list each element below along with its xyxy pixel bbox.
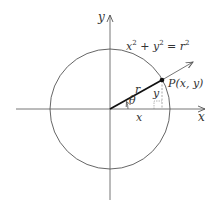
x-leg-label: x	[136, 111, 143, 124]
point-p	[160, 78, 165, 83]
radius-label: r	[135, 83, 141, 96]
x-axis-label: x	[198, 110, 205, 124]
y-axis-label: y	[97, 10, 105, 24]
theta-label: θ	[129, 94, 136, 107]
polar-coordinate-diagram: y x x2 + y2 = r2 P(x, y) r θ x y	[0, 0, 223, 206]
point-p-label: P(x, y)	[167, 77, 203, 90]
y-leg-label: y	[152, 87, 160, 100]
circle-equation: x2 + y2 = r2	[126, 39, 190, 53]
right-angle-marker	[154, 101, 162, 109]
theta-arc-icon	[127, 102, 129, 110]
